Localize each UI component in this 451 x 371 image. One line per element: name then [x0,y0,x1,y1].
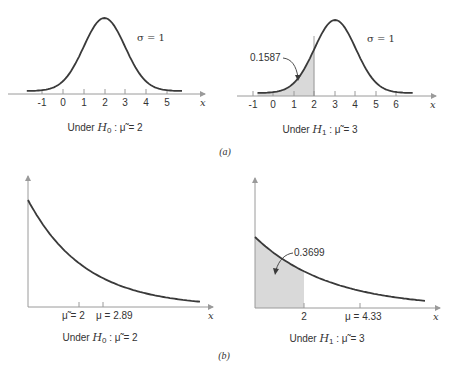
tick-label: 5 [373,99,379,110]
x-axis-label: x [200,97,206,108]
tick-label: 5 [164,97,170,108]
arrow-icon [283,58,298,77]
chart-a-left: -1 0 1 2 3 4 5 x σ = 1 Under H0 : μ̃ = 2 [8,18,206,135]
exponential-curve [28,200,200,302]
sigma-annotation: σ = 1 [367,33,395,44]
tick-label: -1 [249,99,258,110]
mean-label: μ = 4.33 [345,311,382,322]
tick-label: 2 [102,97,108,108]
tick-label: 1 [291,99,297,110]
chart-b-left: μ̃ = 2 μ = 2.89 x Under H0 : μ̃ = 2 [28,176,214,345]
x-ticks [42,89,167,94]
panel-label-b: (b) [218,350,230,362]
tick-label: 3 [122,97,128,108]
x-axis-label: x [208,310,214,321]
normal-curve [27,18,182,91]
median-label: μ̃ = 2 [62,310,85,321]
figure: -1 0 1 2 3 4 5 x σ = 1 Under H0 : μ̃ = 2… [0,0,451,371]
x-axis-label: x [433,311,439,322]
tick-label: 4 [143,97,149,108]
tick-label: 1 [81,97,87,108]
tick-label: 0 [60,97,66,108]
tick-label: 3 [332,99,338,110]
mean-label: μ = 2.89 [96,310,133,321]
normal-curve [258,20,413,93]
chart-a-right: -1 0 1 2 3 4 5 6 x σ = 1 0.1587 Under H1… [237,20,436,137]
panel-label-a: (a) [219,146,231,158]
chart-b-right: 2 μ = 4.33 x 0.3699 Under H1 : μ̃ = 3 [255,178,440,346]
tick-label: -1 [38,97,47,108]
cutoff-label: 2 [301,311,307,322]
caption: Under H0 : μ̃ = 2 [62,331,138,345]
caption: Under H1 : μ̃ = 3 [282,123,358,137]
tick-label: 4 [352,99,358,110]
x-axis-label: x [430,99,436,110]
caption: Under H1 : μ̃ = 3 [289,332,365,346]
tick-label: 2 [311,99,317,110]
area-annotation: 0.3699 [294,247,325,258]
tick-label: 0 [270,99,276,110]
sigma-annotation: σ = 1 [137,32,165,43]
area-annotation: 0.1587 [250,52,281,63]
caption: Under H0 : μ̃ = 2 [67,121,143,135]
tick-label: 6 [393,99,399,110]
